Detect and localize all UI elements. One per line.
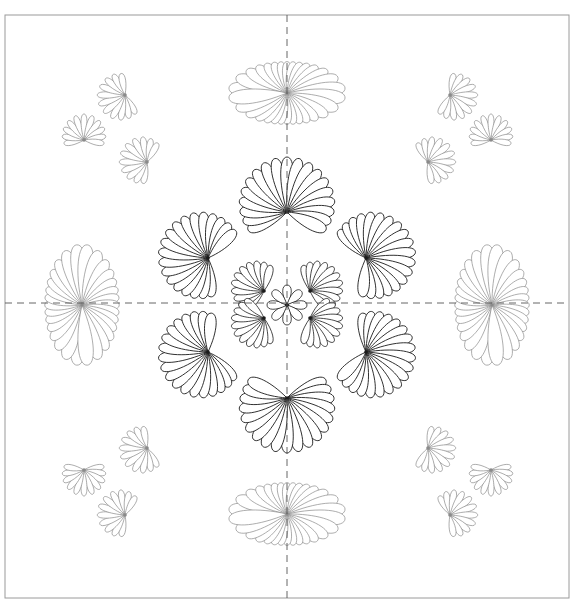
small-feather-fan: [416, 426, 456, 473]
small-feather-fan: [416, 137, 456, 184]
small-feather-fan: [119, 137, 159, 184]
small-feather-fan: [119, 426, 159, 473]
large-feather-fan: [159, 311, 237, 397]
quilt-pattern-canvas: [0, 0, 575, 612]
quilt-feather-design: [0, 0, 575, 612]
corner-cluster-bottom-right: [416, 426, 513, 536]
small-feather-fan: [97, 490, 137, 537]
feather-oval: [45, 245, 119, 365]
large-feather-fan: [337, 311, 415, 397]
small-feather-fan: [62, 114, 105, 146]
small-feather-fan: [438, 73, 478, 120]
feather-oval: [455, 245, 529, 365]
large-feather-fan: [159, 212, 237, 298]
small-feather-fan: [469, 464, 512, 496]
small-feather-fan: [62, 464, 105, 496]
small-feather-fan: [438, 490, 478, 537]
small-feather-fan: [469, 114, 512, 146]
small-feather-fan: [97, 73, 137, 120]
corner-cluster-top-right: [416, 73, 513, 183]
large-feather-fan: [337, 212, 415, 298]
corner-cluster-bottom-left: [62, 426, 159, 536]
corner-cluster-top-left: [62, 73, 159, 183]
